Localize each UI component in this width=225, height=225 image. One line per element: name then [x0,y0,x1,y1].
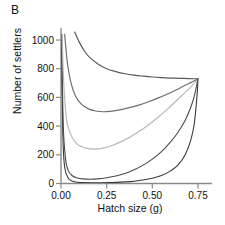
data-curve [65,34,198,111]
y-axis-ticks [56,40,61,184]
x-tick-label-075: 0.75 [188,190,208,201]
data-curve [62,34,198,149]
data-curves [62,32,198,183]
data-curve [62,34,198,179]
y-tick-label-200: 200 [37,149,54,160]
y-tick-label-1000: 1000 [32,35,55,46]
x-tick-label-025: 0.25 [97,190,117,201]
plot-area: 0 200 400 600 800 1000 0.00 0.25 0.50 0.… [0,0,225,225]
data-curve [75,32,198,79]
figure-panel-b: B Number of settlers Hatch size (g) 0 20… [0,0,225,225]
y-tick-label-600: 600 [37,92,54,103]
x-tick-label-0: 0.00 [51,190,71,201]
data-curve [62,34,198,183]
y-tick-label-0: 0 [48,178,54,189]
x-axis-ticks [61,184,198,189]
y-tick-label-400: 400 [37,121,54,132]
y-tick-label-800: 800 [37,63,54,74]
x-tick-label-050: 0.50 [143,190,163,201]
